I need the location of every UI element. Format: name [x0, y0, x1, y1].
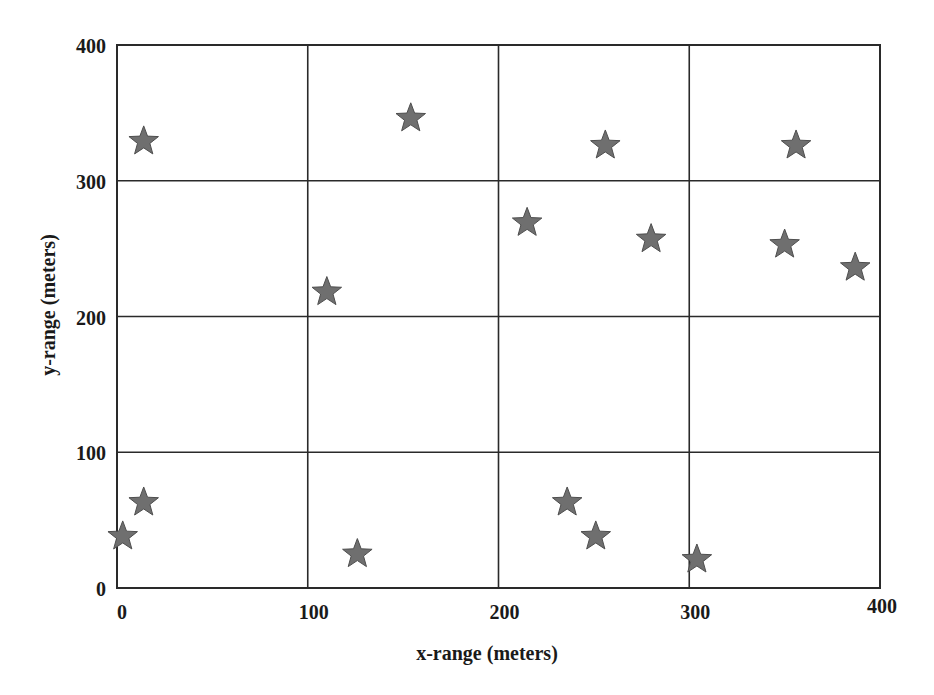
x-tick-label: 100 — [299, 601, 329, 623]
star-marker-icon — [581, 521, 610, 549]
star-marker-icon — [636, 224, 665, 252]
star-marker-icon — [591, 130, 620, 158]
y-axis-label: y-range (meters) — [37, 234, 60, 376]
star-marker-icon — [512, 207, 541, 235]
star-marker-icon — [108, 521, 137, 549]
x-axis-label: x-range (meters) — [416, 642, 558, 665]
y-tick-label: 0 — [96, 578, 106, 600]
star-marker-icon — [312, 277, 341, 305]
star-marker-icon — [682, 544, 711, 572]
y-tick-label: 100 — [76, 442, 106, 464]
scatter-chart: 0100200300400 0100200300400 x-range (met… — [0, 0, 934, 695]
grid-lines — [117, 45, 880, 588]
x-tick-label: 200 — [490, 601, 520, 623]
y-tick-label: 300 — [76, 171, 106, 193]
star-marker-icon — [840, 252, 869, 280]
star-marker-icon — [343, 539, 372, 567]
star-marker-icon — [781, 130, 810, 158]
x-tick-label: 400 — [867, 595, 897, 617]
data-points — [108, 103, 870, 572]
star-marker-icon — [770, 229, 799, 257]
star-marker-icon — [129, 126, 158, 154]
y-tick-label: 400 — [76, 35, 106, 57]
star-marker-icon — [552, 487, 581, 515]
y-tick-label: 200 — [76, 307, 106, 329]
y-axis-ticks: 0100200300400 — [76, 35, 106, 600]
x-tick-label: 0 — [117, 601, 127, 623]
x-tick-label: 300 — [680, 601, 710, 623]
x-axis-ticks: 0100200300400 — [117, 595, 897, 623]
star-marker-icon — [129, 487, 158, 515]
star-marker-icon — [396, 103, 425, 131]
